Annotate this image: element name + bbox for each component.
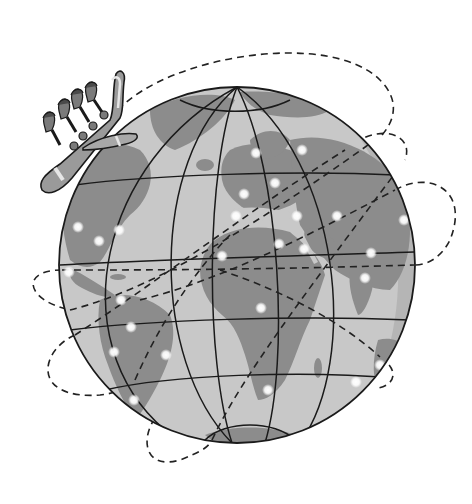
passenger-4 — [85, 82, 102, 112]
globe-illustration — [0, 0, 472, 504]
globe — [59, 60, 470, 470]
passenger-1 — [43, 112, 60, 145]
